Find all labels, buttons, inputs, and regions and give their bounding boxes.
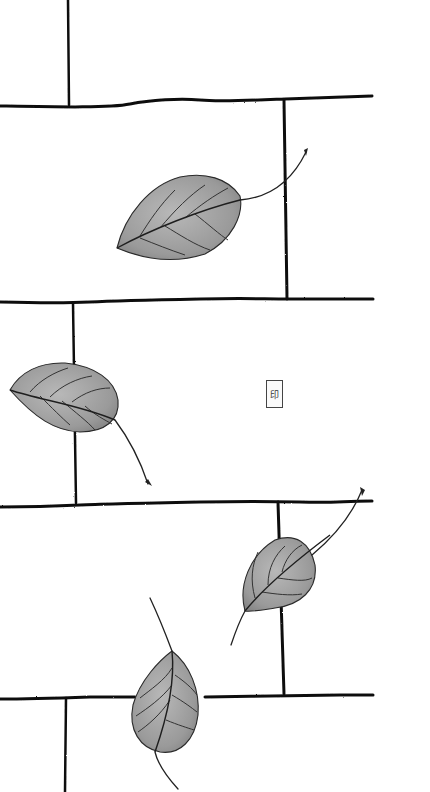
vertical-mortar-line-4 [65, 698, 66, 792]
vertical-mortar-line-0 [68, 0, 69, 105]
leaf-stem [115, 420, 148, 484]
leaf-middle-right [231, 487, 365, 645]
leaf-tail-stem [231, 611, 245, 645]
vertical-mortar-line-1 [284, 100, 287, 299]
artist-seal-stamp: 印 [266, 380, 283, 408]
leaf-stem [155, 752, 178, 789]
ink-painting-canvas [0, 0, 430, 792]
leaf-tail-stem [150, 598, 172, 651]
leaf-bottom [132, 598, 198, 789]
leaf-blade [132, 651, 198, 752]
leaf-middle-left [10, 363, 152, 486]
falling-leaves [10, 148, 365, 789]
leaf-stem [240, 152, 306, 200]
seal-label: 印 [268, 390, 281, 399]
horizontal-mortar-line-0 [0, 96, 372, 107]
leaf-blade [10, 363, 118, 432]
leaf-top [117, 148, 308, 259]
horizontal-mortar-line-2 [0, 501, 372, 507]
leaf-stem [312, 490, 362, 555]
horizontal-mortar-line-1 [0, 299, 373, 303]
leaf-blade [117, 175, 241, 259]
